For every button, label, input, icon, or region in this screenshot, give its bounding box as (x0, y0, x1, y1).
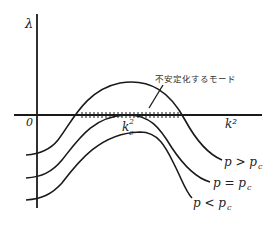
curve-p-equal-pc (26, 115, 210, 182)
svg-text:2: 2 (128, 117, 134, 126)
svg-text:c: c (227, 203, 232, 212)
y-axis-label: λ (24, 16, 33, 31)
origin-label: 0 (26, 116, 33, 129)
x-axis-label: k² (225, 117, 237, 131)
svg-text:p < p: p < p (193, 196, 226, 210)
label-p-equal-pc: p = p c (213, 176, 252, 192)
svg-text:c: c (247, 183, 252, 192)
label-p-less-pc: p < p c (193, 196, 232, 212)
annotation-label: 不安定化するモード (155, 74, 236, 84)
svg-text:p > p: p > p (224, 155, 257, 169)
svg-text:c: c (129, 128, 134, 137)
svg-text:p = p: p = p (213, 176, 246, 190)
curve-p-less-pc (26, 132, 192, 200)
dispersion-diagram: λ 0 k² k c 2 不安定化するモード p > p c p = p c p… (0, 0, 274, 225)
svg-text:c: c (258, 162, 263, 171)
label-p-greater-pc: p > p c (224, 155, 263, 171)
